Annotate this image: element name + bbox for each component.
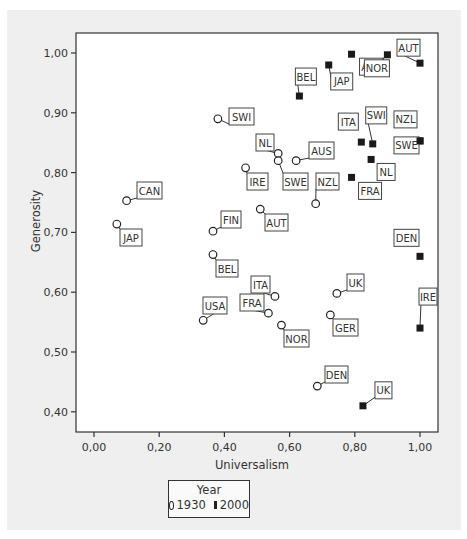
marker-2000 [348, 174, 355, 181]
x-tick-label: 0,60 [277, 441, 302, 454]
marker-1930 [271, 293, 279, 301]
y-tick-label: 0,50 [44, 346, 69, 359]
filled-square-icon [214, 501, 217, 509]
point-label: ITA [341, 117, 356, 128]
point-label: SWE [284, 177, 307, 188]
marker-1930 [327, 311, 335, 319]
x-tick-label: 0,20 [147, 441, 172, 454]
y-tick-label: 0,70 [44, 226, 69, 239]
point-label: FIN [223, 215, 239, 226]
point-label: NL [380, 167, 393, 178]
marker-2000 [348, 51, 355, 58]
marker-1930 [256, 205, 264, 213]
marker-1930 [209, 251, 217, 259]
point-label: AUS [311, 146, 332, 157]
marker-2000 [325, 61, 332, 68]
marker-1930 [123, 197, 131, 205]
point-label: NZL [318, 177, 338, 188]
marker-1930 [199, 317, 207, 325]
marker-2000 [417, 60, 424, 67]
marker-1930 [265, 309, 273, 317]
point-label: JAP [122, 233, 139, 244]
legend: Year 1930 2000 [168, 480, 250, 518]
marker-2000 [384, 51, 391, 58]
y-tick-label: 0,60 [44, 286, 69, 299]
x-tick-label: 0,00 [82, 441, 107, 454]
point-label: ITA [253, 280, 268, 291]
marker-1930 [214, 115, 222, 123]
legend-label-1930: 1930 [177, 498, 206, 512]
legend-entries: 1930 2000 [169, 498, 249, 512]
x-axis-title: Universalism [215, 458, 289, 472]
chart-figure: 0,400,500,600,700,800,901,00 0,000,200,4… [7, 10, 461, 530]
marker-1930 [312, 200, 320, 208]
marker-1930 [242, 164, 250, 172]
x-axis: 0,000,200,400,600,801,00 [82, 432, 433, 454]
point-label: DEN [326, 370, 348, 381]
x-tick-label: 0,80 [343, 441, 368, 454]
marker-1930 [314, 382, 322, 390]
y-tick-label: 0,90 [44, 107, 69, 120]
x-tick-label: 0,40 [212, 441, 237, 454]
marker-2000 [368, 156, 375, 163]
marker-1930 [278, 321, 286, 329]
marker-1930 [113, 220, 121, 228]
y-axis-title: Generosity [29, 190, 43, 253]
point-label: GER [335, 323, 356, 334]
y-tick-label: 0,80 [44, 167, 69, 180]
y-tick-label: 0,40 [44, 406, 69, 419]
point-label: NOR [366, 63, 388, 74]
point-label: NZL [396, 114, 416, 125]
legend-title: Year [169, 482, 249, 498]
point-label: IRE [249, 177, 265, 188]
point-label: DEN [396, 233, 418, 244]
point-label: FRA [242, 298, 261, 309]
point-label: UK [377, 385, 391, 396]
point-label: SWI [367, 110, 386, 121]
point-label: BEL [297, 72, 316, 83]
marker-1930 [274, 157, 282, 165]
marker-2000 [296, 93, 303, 100]
point-label: UK [349, 278, 363, 289]
point-label: USA [205, 301, 226, 312]
marker-1930 [274, 150, 282, 158]
point-label: FRA [360, 186, 379, 197]
marker-2000 [417, 253, 424, 260]
y-axis: 0,400,500,600,700,800,901,00 [44, 47, 77, 419]
legend-label-2000: 2000 [220, 498, 249, 512]
scatter-plot: 0,400,500,600,700,800,901,00 0,000,200,4… [7, 10, 461, 530]
marker-2000 [417, 325, 424, 332]
point-label: SWI [232, 112, 251, 123]
marker-1930 [333, 290, 341, 298]
marker-2000 [369, 140, 376, 147]
x-tick-label: 1,00 [408, 441, 433, 454]
y-tick-label: 1,00 [44, 47, 69, 60]
open-circle-icon [169, 501, 174, 510]
point-label: JAP [333, 76, 350, 87]
marker-2000 [417, 137, 424, 144]
point-label: IRE [420, 292, 436, 303]
marker-1930 [209, 227, 217, 235]
point-label: BEL [218, 264, 237, 275]
point-label: CAN [139, 186, 160, 197]
point-label: AUT [266, 218, 287, 229]
marker-1930 [292, 157, 300, 165]
point-label: AUT [398, 43, 419, 54]
marker-2000 [359, 402, 366, 409]
point-label: NOR [285, 334, 307, 345]
point-label: SWE [395, 140, 418, 151]
marker-2000 [358, 139, 365, 146]
point-label: NL [258, 138, 271, 149]
